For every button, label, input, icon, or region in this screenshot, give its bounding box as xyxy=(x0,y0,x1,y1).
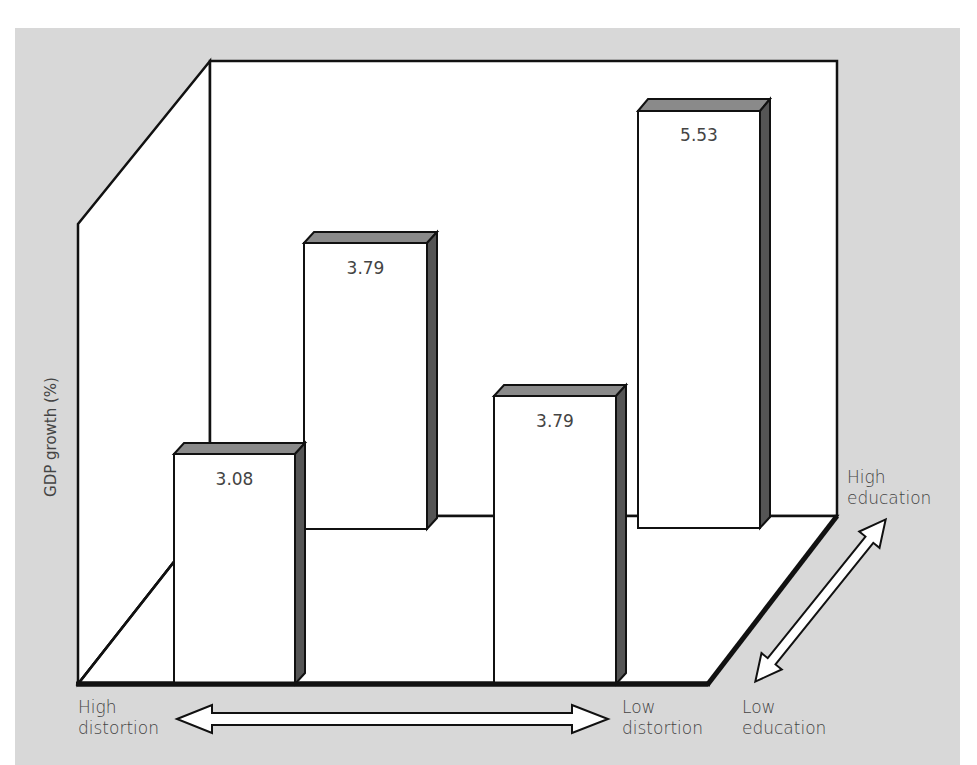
y-axis-label: GDP growth (%) xyxy=(42,377,60,497)
distortion-axis-arrow xyxy=(177,705,608,733)
z-front-line2: education xyxy=(742,718,826,739)
x-axis-right-label: Low distortion xyxy=(622,697,703,739)
bar-high-distortion-low-education: 3.08 xyxy=(174,443,305,684)
z-axis-front-label: Low education xyxy=(742,697,826,739)
x-left-line2: distortion xyxy=(78,718,159,739)
z-back-line1: High xyxy=(847,467,931,488)
svg-text:3.08: 3.08 xyxy=(216,469,254,489)
svg-text:3.79: 3.79 xyxy=(347,258,385,278)
bar-high-distortion-high-education: 3.79 xyxy=(304,232,437,529)
chart-3d-box: 3.79 5.53 3.08 3.79 xyxy=(0,0,977,765)
bar-low-distortion-low-education: 3.79 xyxy=(494,385,626,684)
x-left-line1: High xyxy=(78,697,159,718)
z-back-line2: education xyxy=(847,488,931,509)
z-front-line1: Low xyxy=(742,697,826,718)
svg-text:3.79: 3.79 xyxy=(536,411,574,431)
x-right-line2: distortion xyxy=(622,718,703,739)
x-axis-left-label: High distortion xyxy=(78,697,159,739)
z-axis-back-label: High education xyxy=(847,467,931,509)
bar-low-distortion-high-education: 5.53 xyxy=(638,99,770,528)
svg-text:5.53: 5.53 xyxy=(680,125,718,145)
x-right-line1: Low xyxy=(622,697,703,718)
